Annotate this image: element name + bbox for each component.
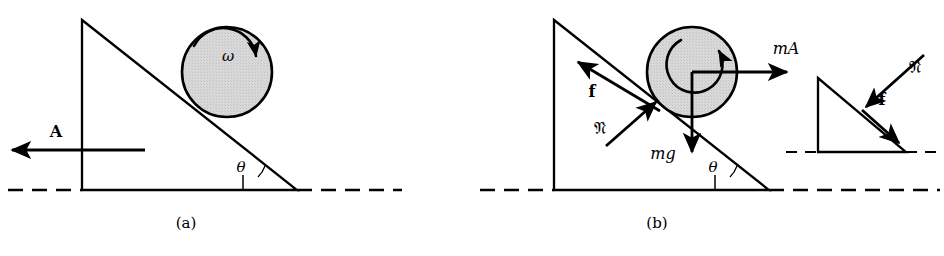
figure-canvas: ω A θ (a): [0, 0, 944, 256]
incline-angle-label-b: θ: [708, 158, 717, 176]
inset-friction-label-f: f: [879, 90, 887, 109]
acceleration-label-A: A: [49, 122, 63, 141]
panel-a: ω A θ (a): [8, 20, 402, 232]
normal-force-vector-N: [606, 102, 656, 146]
inset-wedge-outline: [818, 78, 906, 152]
weight-label-mg: mg: [650, 144, 675, 163]
panel-b: f 𝔑 mg mA θ: [480, 20, 940, 232]
inset-friction-vector-f: [862, 110, 899, 143]
omega-label: ω: [222, 47, 234, 65]
incline-angle-label-a: θ: [236, 158, 245, 176]
normal-force-label-N: 𝔑: [594, 118, 606, 138]
physics-figure: ω A θ (a): [0, 0, 944, 256]
inset-normal-force-label-N: 𝔑: [909, 57, 921, 77]
theta-arc-b: [730, 166, 737, 177]
wedge-reaction-inset: 𝔑 f: [786, 55, 938, 152]
ball-a: [182, 27, 272, 117]
pseudo-force-label-mA: mA: [773, 39, 800, 58]
panel-caption-a: (a): [176, 214, 197, 232]
panel-caption-b: (b): [646, 214, 667, 232]
theta-arc-a: [258, 166, 265, 177]
friction-label-f: f: [589, 82, 597, 101]
